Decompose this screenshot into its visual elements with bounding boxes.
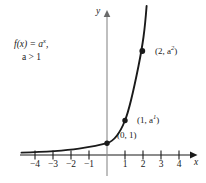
- graph-canvas: [0, 0, 206, 183]
- x-tick-label-1: 1: [117, 159, 133, 169]
- x-tick-label--4: −4: [27, 159, 43, 169]
- y-axis-label: y: [96, 7, 100, 17]
- x-tick-label--2: −2: [63, 159, 79, 169]
- exponential-function-figure: f(x) = ax, a > 1 (2, a2) (1, a1) (0, 1) …: [0, 0, 206, 183]
- x-tick-label--1: −1: [81, 159, 97, 169]
- x-tick-label-2: 2: [135, 159, 151, 169]
- point-label-2-a2: (2, a2): [155, 45, 177, 56]
- point-marker-1-a1: [122, 118, 127, 123]
- function-expression-suffix: ,: [46, 39, 48, 49]
- function-expression: f(x) = a: [14, 39, 43, 49]
- function-definition-label: f(x) = ax, a > 1: [14, 38, 48, 62]
- x-tick-label-3: 3: [153, 159, 169, 169]
- base-condition: a > 1: [22, 53, 48, 63]
- point-marker-2-a2: [139, 48, 145, 54]
- x-tick-label-4: 4: [171, 159, 187, 169]
- point-label-1-suffix: ): [156, 115, 159, 125]
- point-label-1-a1: (1, a1): [137, 114, 159, 125]
- point-label-1-prefix: (1, a: [137, 115, 153, 125]
- y-axis-arrowhead: [104, 10, 111, 17]
- point-label-0-1: (0, 1): [117, 131, 137, 140]
- point-label-2-suffix: ): [174, 46, 177, 56]
- x-tick-label--3: −3: [45, 159, 61, 169]
- x-axis-label: x: [194, 158, 198, 168]
- point-label-2-prefix: (2, a: [155, 46, 171, 56]
- point-marker-0-1: [104, 141, 109, 146]
